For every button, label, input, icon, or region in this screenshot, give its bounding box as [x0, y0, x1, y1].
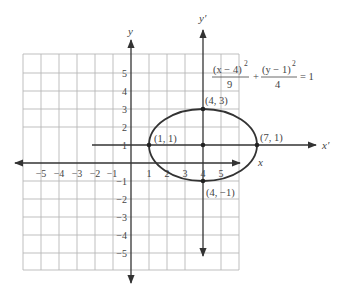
svg-text:5: 5: [122, 68, 127, 79]
svg-text:−5: −5: [116, 248, 127, 259]
svg-text:(x − 4): (x − 4): [213, 64, 242, 76]
x-tick-labels: −5 −4 −3 −2 −1 1 2 3 4 5: [36, 168, 224, 179]
point-label-bottom: (4, −1): [206, 187, 235, 199]
svg-text:4: 4: [201, 168, 206, 179]
svg-text:9: 9: [227, 79, 232, 90]
x-axis-label: x: [257, 156, 263, 168]
y-prime-axis-label: y′: [198, 12, 207, 24]
svg-text:2: 2: [244, 59, 248, 68]
svg-text:−1: −1: [116, 176, 127, 187]
svg-text:−3: −3: [72, 168, 83, 179]
ellipse-diagram: x y x′ y′ −5 −4 −3 −2 −1 1 2 3 4 5 5 4 3…: [0, 0, 340, 291]
svg-text:= 1: = 1: [300, 71, 314, 82]
svg-text:(y − 1): (y − 1): [262, 64, 291, 76]
point-label-left: (1, 1): [154, 133, 177, 145]
x-prime-axis-label: x′: [321, 139, 330, 151]
svg-text:+: +: [253, 71, 259, 82]
svg-text:3: 3: [122, 104, 127, 115]
svg-text:1: 1: [147, 168, 152, 179]
svg-text:2: 2: [122, 122, 127, 133]
point-label-top: (4, 3): [205, 95, 228, 107]
svg-text:1: 1: [122, 140, 127, 151]
svg-text:−4: −4: [54, 168, 65, 179]
svg-text:−4: −4: [116, 230, 127, 241]
y-axis-label: y: [127, 25, 133, 37]
svg-text:4: 4: [275, 79, 281, 90]
svg-text:5: 5: [219, 168, 224, 179]
svg-text:3: 3: [183, 168, 188, 179]
svg-text:2: 2: [292, 59, 296, 68]
svg-text:−2: −2: [90, 168, 101, 179]
point-label-right: (7, 1): [260, 132, 283, 144]
svg-text:−5: −5: [36, 168, 47, 179]
svg-text:−3: −3: [116, 212, 127, 223]
svg-text:−2: −2: [116, 194, 127, 205]
ellipse-equation: (x − 4) 2 9 + (y − 1) 2 4 = 1: [212, 59, 314, 90]
svg-text:4: 4: [122, 86, 127, 97]
